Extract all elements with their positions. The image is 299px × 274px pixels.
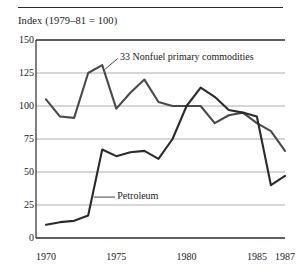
y-axis-tick-label: 125 bbox=[8, 68, 34, 78]
series-label-petroleum: Petroleum bbox=[117, 191, 158, 201]
x-axis-tick-label: 1970 bbox=[30, 252, 62, 262]
data-line bbox=[46, 88, 285, 225]
chart-figure: Index (1979–81 = 100) 0255075100125150 1… bbox=[0, 0, 299, 274]
leader-line bbox=[105, 58, 117, 69]
gridlines bbox=[36, 40, 285, 238]
x-axis-tick-label: 1975 bbox=[100, 252, 132, 262]
y-axis-tick-label: 25 bbox=[8, 200, 34, 210]
y-axis-tick-label: 100 bbox=[8, 101, 34, 111]
y-axis-tick-label: 50 bbox=[8, 167, 34, 177]
x-axis-tick-label: 1987 bbox=[269, 252, 299, 262]
x-axis-tick-label: 1980 bbox=[171, 252, 203, 262]
series-label-nonfuel: 33 Nonfuel primary commodities bbox=[120, 52, 254, 62]
y-axis-tick-label: 150 bbox=[8, 35, 34, 45]
data-line bbox=[46, 65, 285, 151]
series-lines bbox=[46, 65, 285, 225]
y-axis-tick-label: 75 bbox=[8, 134, 34, 144]
y-axis-tick-label: 0 bbox=[8, 233, 34, 243]
plot-area bbox=[0, 0, 299, 274]
